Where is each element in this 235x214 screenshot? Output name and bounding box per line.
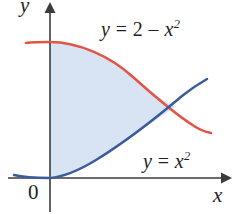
upper-curve-label-y: y [101, 18, 110, 40]
origin-label: 0 [28, 182, 39, 203]
lower-curve-label: y = x2 [143, 151, 191, 171]
y-axis-arrowhead [45, 2, 56, 13]
upper-curve-label-variable: x [164, 18, 173, 40]
upper-curve-label-minus: – [149, 18, 159, 40]
lower-curve-label-variable: x [175, 150, 184, 172]
area-between-curves-figure: y = 2 – x2 y = x2 y x 0 [0, 0, 235, 214]
x-axis-arrowhead [221, 173, 232, 184]
lower-curve-label-exponent: 2 [184, 149, 191, 163]
y-axis-label: y [20, 0, 29, 16]
lower-curve-label-equals: = [158, 150, 170, 172]
upper-curve-label-constant: 2 [133, 18, 143, 40]
x-axis-label: x [213, 185, 222, 206]
upper-curve-label: y = 2 – x2 [101, 19, 180, 39]
upper-curve-label-exponent: 2 [174, 17, 181, 31]
upper-curve-label-equals: = [116, 18, 128, 40]
lower-curve-label-y: y [143, 150, 152, 172]
